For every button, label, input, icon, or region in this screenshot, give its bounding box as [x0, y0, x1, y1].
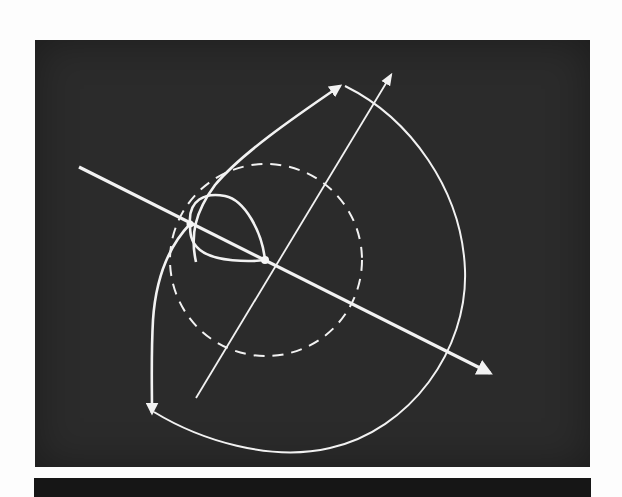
secondary-axis-arrow [196, 75, 391, 398]
loop-node [187, 221, 194, 228]
outer-trajectory-left [152, 224, 190, 413]
outer-trajectory-arc [154, 86, 465, 452]
diagram-canvas [0, 0, 622, 497]
center-node [261, 256, 269, 264]
primary-axis-arrow [79, 167, 490, 373]
